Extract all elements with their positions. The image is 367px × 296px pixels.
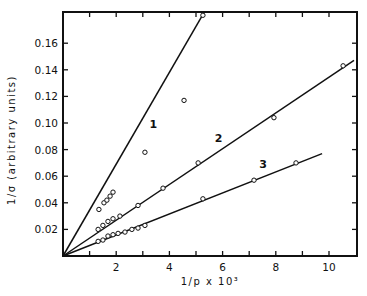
data-point — [111, 190, 115, 194]
x-tick-label: 6 — [219, 261, 226, 273]
series-labels: 123 — [150, 118, 267, 171]
data-point — [111, 217, 115, 221]
y-tick-label: 0.08 — [35, 144, 58, 156]
data-point — [101, 238, 105, 242]
data-point — [123, 230, 127, 234]
data-point — [106, 234, 110, 238]
y-tick-label: 0.02 — [35, 223, 58, 235]
data-point — [96, 227, 100, 231]
data-point — [201, 13, 205, 17]
data-point — [294, 161, 298, 165]
y-tick-label: 0.12 — [35, 90, 58, 102]
data-point — [111, 233, 115, 237]
data-point — [201, 197, 205, 201]
data-point — [182, 98, 186, 102]
data-point — [108, 194, 112, 198]
series-label-1: 1 — [150, 118, 158, 131]
data-point — [196, 161, 200, 165]
data-point — [136, 203, 140, 207]
x-tick-label: 8 — [272, 261, 279, 273]
y-axis-ticks: 0.020.040.060.080.100.120.140.16 — [35, 37, 357, 235]
data-point — [116, 231, 120, 235]
y-tick-label: 0.10 — [35, 117, 58, 129]
data-point — [136, 226, 140, 230]
x-axis-title: 1/p x 10³ — [181, 276, 240, 287]
data-point — [143, 150, 147, 154]
y-axis-title: 1/σ (arbitrary units) — [6, 75, 17, 205]
series-label-3: 3 — [259, 158, 267, 171]
y-tick-label: 0.04 — [35, 197, 59, 209]
y-tick-label: 0.16 — [35, 37, 59, 49]
x-tick-label: 4 — [166, 261, 173, 273]
data-point — [97, 207, 101, 211]
y-tick-label: 0.14 — [35, 64, 59, 76]
y-tick-label: 0.06 — [35, 170, 59, 182]
series-label-2: 2 — [215, 132, 223, 145]
x-tick-label: 2 — [113, 261, 120, 273]
data-point — [252, 178, 256, 182]
data-point — [101, 223, 105, 227]
data-point — [106, 219, 110, 223]
data-point — [341, 64, 345, 68]
data-point — [96, 239, 100, 243]
data-point — [118, 214, 122, 218]
chart: 246810 0.020.040.060.080.100.120.140.16 … — [0, 0, 367, 296]
data-point — [143, 223, 147, 227]
data-point — [105, 198, 109, 202]
x-tick-label: 10 — [322, 261, 335, 273]
series-line-1 — [63, 13, 204, 256]
data-point — [130, 227, 134, 231]
data-point — [272, 115, 276, 119]
data-point — [161, 186, 165, 190]
